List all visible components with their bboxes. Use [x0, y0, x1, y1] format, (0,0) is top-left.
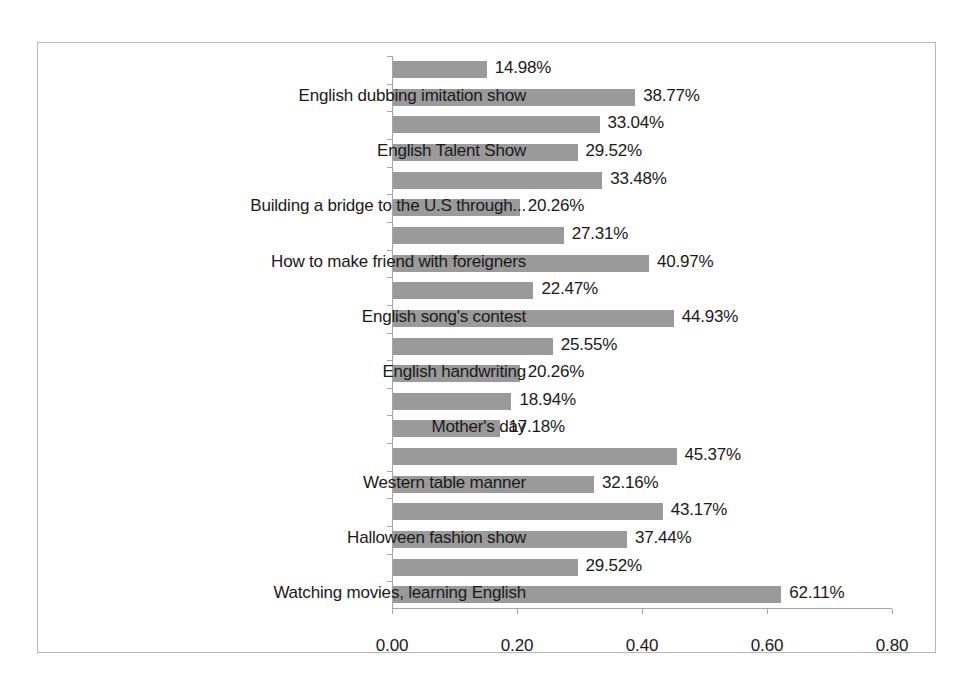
- category-tick: [387, 388, 392, 389]
- category-tick: [387, 443, 392, 444]
- bar-row: 22.47%: [392, 277, 892, 305]
- category-tick: [387, 250, 392, 251]
- category-tick: [387, 415, 392, 416]
- category-label: How to make friend with foreigners: [271, 252, 526, 272]
- bar-value-label: 29.52%: [586, 141, 642, 161]
- bar-row: 20.26%English handwriting: [392, 360, 892, 388]
- category-tick: [387, 139, 392, 140]
- bar-value-label: 32.16%: [602, 473, 658, 493]
- x-axis-tick: [767, 609, 768, 614]
- bar-value-label: 33.48%: [610, 169, 666, 189]
- bar-row: 18.94%: [392, 388, 892, 416]
- bar-row: 25.55%: [392, 333, 892, 361]
- category-tick: [387, 581, 392, 582]
- bar: [393, 503, 663, 520]
- category-label: English song's contest: [362, 307, 526, 327]
- category-tick: [387, 56, 392, 57]
- category-tick: [387, 526, 392, 527]
- bar-row: 44.93%English song's contest: [392, 305, 892, 333]
- bar-value-label: 37.44%: [635, 528, 691, 548]
- bar-row: 33.48%: [392, 167, 892, 195]
- category-label: Building a bridge to the U.S through...: [250, 196, 526, 216]
- x-axis-tick-label: 0.00: [376, 636, 408, 656]
- category-tick: [387, 84, 392, 85]
- bar: [393, 61, 487, 78]
- bar-value-label: 22.47%: [541, 279, 597, 299]
- category-tick: [387, 498, 392, 499]
- bar-row: 32.16%Western table manner: [392, 471, 892, 499]
- category-tick: [387, 333, 392, 334]
- category-tick: [387, 360, 392, 361]
- x-axis-tick: [517, 609, 518, 614]
- bar: [393, 116, 600, 133]
- category-tick: [387, 167, 392, 168]
- bar: [393, 338, 553, 355]
- category-label: English Talent Show: [377, 141, 526, 161]
- bar-value-label: 20.26%: [528, 196, 584, 216]
- bar-row: 29.52%: [392, 554, 892, 582]
- bar-value-label: 27.31%: [572, 224, 628, 244]
- category-label: Halloween fashion show: [347, 528, 526, 548]
- x-axis-tick-label: 0.60: [751, 636, 783, 656]
- bar: [393, 282, 533, 299]
- bar-row: 27.31%: [392, 222, 892, 250]
- bar-row: 37.44%Halloween fashion show: [392, 526, 892, 554]
- category-tick: [387, 471, 392, 472]
- plot-area: 14.98%38.77%English dubbing imitation sh…: [392, 56, 892, 609]
- category-label: Watching movies, learning English: [273, 583, 526, 603]
- bar: [393, 448, 677, 465]
- x-axis-tick: [892, 609, 893, 614]
- category-tick: [387, 277, 392, 278]
- bar-row: 62.11%Watching movies, learning English: [392, 581, 892, 609]
- x-axis-tick-label: 0.40: [626, 636, 658, 656]
- bar-value-label: 38.77%: [643, 86, 699, 106]
- bar-value-label: 20.26%: [528, 362, 584, 382]
- x-axis-tick-label: 0.20: [501, 636, 533, 656]
- bar-value-label: 25.55%: [561, 335, 617, 355]
- bar: [393, 172, 602, 189]
- category-label: Mother's day: [432, 417, 526, 437]
- bar-value-label: 45.37%: [685, 445, 741, 465]
- bar-row: 20.26%Building a bridge to the U.S throu…: [392, 194, 892, 222]
- category-tick: [387, 222, 392, 223]
- category-tick: [387, 554, 392, 555]
- category-label: English handwriting: [382, 362, 526, 382]
- bar-row: 40.97%How to make friend with foreigners: [392, 250, 892, 278]
- bar-value-label: 44.93%: [682, 307, 738, 327]
- category-tick: [387, 194, 392, 195]
- chart-page: 14.98%38.77%English dubbing imitation sh…: [0, 0, 966, 683]
- bar-row: 33.04%: [392, 111, 892, 139]
- chart-frame: 14.98%38.77%English dubbing imitation sh…: [37, 42, 936, 653]
- bar-row: 38.77%English dubbing imitation show: [392, 84, 892, 112]
- bar-row: 17.18%Mother's day: [392, 415, 892, 443]
- bar-value-label: 29.52%: [586, 556, 642, 576]
- x-axis-tick-label: 0.80: [876, 636, 908, 656]
- category-tick: [387, 111, 392, 112]
- bar-row: 14.98%: [392, 56, 892, 84]
- x-axis-tick: [642, 609, 643, 614]
- bar-value-label: 62.11%: [789, 583, 844, 603]
- bar-value-label: 33.04%: [608, 113, 664, 133]
- bar-row: 43.17%: [392, 498, 892, 526]
- bar: [393, 559, 578, 576]
- x-axis-tick: [392, 609, 393, 614]
- bar-value-label: 43.17%: [671, 500, 727, 520]
- bar-value-label: 18.94%: [519, 390, 575, 410]
- bar-row: 45.37%: [392, 443, 892, 471]
- bar-value-label: 40.97%: [657, 252, 713, 272]
- bar-row: 29.52%English Talent Show: [392, 139, 892, 167]
- bar: [393, 227, 564, 244]
- category-label: Western table manner: [363, 473, 526, 493]
- category-tick: [387, 305, 392, 306]
- bar: [393, 393, 511, 410]
- bar-value-label: 14.98%: [495, 58, 551, 78]
- category-label: English dubbing imitation show: [299, 86, 526, 106]
